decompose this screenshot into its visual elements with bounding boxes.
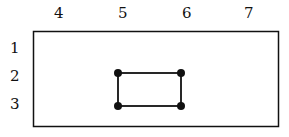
- node-6-2: [177, 69, 185, 77]
- node-5-2: [114, 69, 122, 77]
- outer-box: [34, 32, 279, 127]
- inner-rectangle: [118, 73, 181, 106]
- node-6-3: [177, 102, 185, 110]
- diagram-canvas: [0, 0, 289, 137]
- node-5-3: [114, 102, 122, 110]
